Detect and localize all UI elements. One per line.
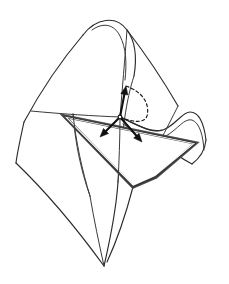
saddle-surface-diagram [0, 0, 229, 284]
surface-edge-top-arch-inner [92, 25, 126, 80]
surface-edge-descend-right [107, 187, 133, 262]
surface-edge-bottom-left [16, 163, 104, 266]
base-point-marker [118, 115, 122, 119]
surface-bottom-cusp [90, 182, 133, 266]
surface-gridline-left-transversal [31, 111, 120, 117]
surface-edge-left-lower [16, 122, 24, 163]
surface-gridline-bottom-left [90, 196, 104, 266]
figure-root [0, 0, 229, 284]
surface-edge-top-arch [83, 20, 136, 76]
surface-edge-upper-left [24, 35, 83, 122]
